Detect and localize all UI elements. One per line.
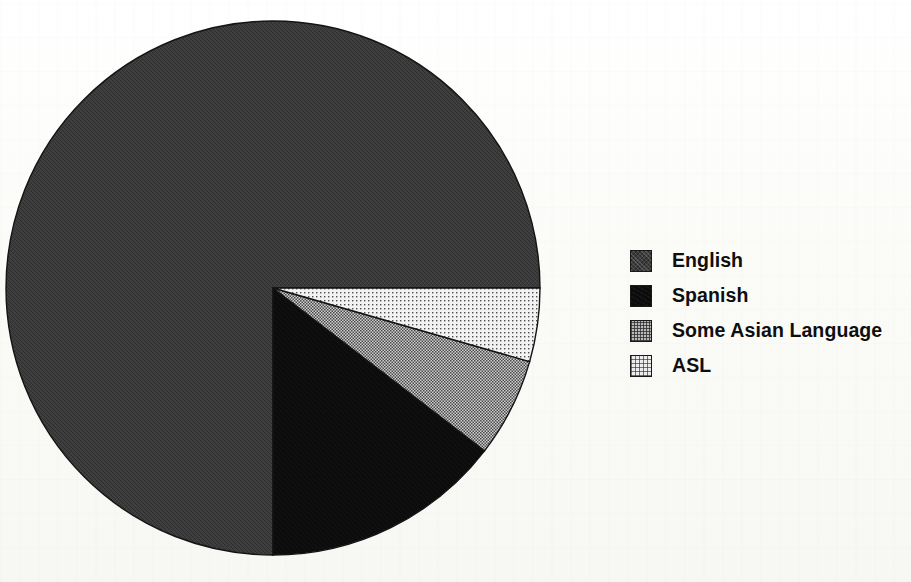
legend-label-asl: ASL <box>672 356 711 376</box>
legend-swatch-spanish <box>630 285 652 307</box>
legend-swatch-english <box>630 250 652 272</box>
legend-swatch-asl <box>630 355 652 377</box>
legend-label-some-asian-language: Some Asian Language <box>672 321 882 341</box>
legend-label-spanish: Spanish <box>672 286 749 306</box>
chart-legend: English Spanish Some Asian Language ASL <box>630 243 882 383</box>
legend-item-asl[interactable]: ASL <box>630 348 882 383</box>
legend-label-english: English <box>672 251 743 271</box>
legend-item-english[interactable]: English <box>630 243 882 278</box>
pie-slice-group <box>6 21 540 555</box>
legend-swatch-some-asian-language <box>630 320 652 342</box>
legend-item-some-asian-language[interactable]: Some Asian Language <box>630 313 882 348</box>
legend-item-spanish[interactable]: Spanish <box>630 278 882 313</box>
